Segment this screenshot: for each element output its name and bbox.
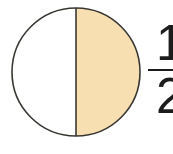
- fraction-label: 1 2: [148, 20, 173, 120]
- fraction-illustration-canvas: 1 2: [0, 0, 173, 154]
- fraction-denominator: 2: [148, 73, 173, 120]
- circle-shaded-half: [76, 8, 140, 136]
- fraction-numerator: 1: [148, 20, 173, 67]
- circle-unshaded-half: [12, 8, 76, 136]
